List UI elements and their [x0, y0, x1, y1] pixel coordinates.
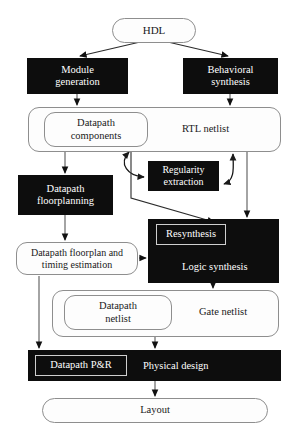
- node-module-generation[interactable]: Module generation: [27, 58, 128, 94]
- node-regularity-extraction-line2: extraction: [164, 176, 204, 188]
- node-layout-label: Layout: [140, 404, 170, 416]
- node-resynthesis[interactable]: Resynthesis: [156, 224, 226, 245]
- node-physical-design-label: Physical design: [143, 360, 209, 371]
- node-datapath-netlist-line2: netlist: [105, 313, 131, 325]
- node-behavioral-synthesis[interactable]: Behavioral synthesis: [183, 58, 278, 94]
- node-datapath-floorplan-timing-line2: timing estimation: [42, 259, 112, 271]
- node-regularity-extraction-line1: Regularity: [162, 164, 204, 176]
- node-datapath-components-line2: components: [71, 130, 122, 142]
- flowchart-diagram: HDL Module generation Behavioral synthes…: [0, 0, 296, 441]
- node-layout[interactable]: Layout: [42, 398, 268, 423]
- node-hdl-label: HDL: [143, 24, 166, 37]
- wire-hdl-to-behavioral-synthesis: [170, 43, 228, 57]
- wire-regularity-extraction-rtl-netlist: [224, 154, 233, 184]
- node-module-generation-line2: generation: [55, 76, 99, 88]
- wire-hdl-to-module-generation: [80, 43, 138, 57]
- node-datapath-pr[interactable]: Datapath P&R: [35, 355, 127, 376]
- node-datapath-components[interactable]: Datapath components: [44, 112, 148, 147]
- node-hdl[interactable]: HDL: [112, 18, 196, 43]
- node-module-generation-line1: Module: [61, 64, 94, 76]
- node-datapath-netlist[interactable]: Datapath netlist: [64, 295, 172, 330]
- node-datapath-netlist-line1: Datapath: [99, 300, 137, 312]
- node-resynthesis-label: Resynthesis: [166, 228, 216, 240]
- node-datapath-components-line1: Datapath: [77, 117, 115, 129]
- node-datapath-pr-label: Datapath P&R: [50, 359, 112, 371]
- node-datapath-floorplan-timing[interactable]: Datapath floorplan and timing estimation: [16, 242, 138, 275]
- node-logic-synthesis-label: Logic synthesis: [182, 261, 248, 272]
- node-datapath-floorplanning-line2: floorplanning: [37, 195, 94, 207]
- node-datapath-floorplanning-line1: Datapath: [47, 183, 85, 195]
- node-datapath-floorplan-timing-line1: Datapath floorplan and: [31, 247, 123, 259]
- node-datapath-floorplanning[interactable]: Datapath floorplanning: [18, 175, 113, 215]
- node-behavioral-synthesis-line2: synthesis: [211, 76, 250, 88]
- node-regularity-extraction[interactable]: Regularity extraction: [148, 161, 219, 191]
- node-gate-netlist-label: Gate netlist: [199, 306, 247, 317]
- wire-datapath-components-regularity-extraction: [124, 152, 144, 177]
- node-behavioral-synthesis-line1: Behavioral: [207, 64, 253, 76]
- node-rtl-netlist-label: RTL netlist: [182, 123, 229, 134]
